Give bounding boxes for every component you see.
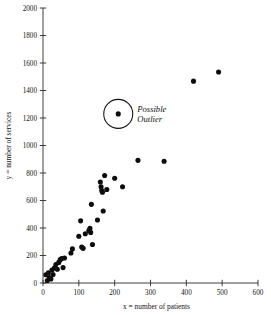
x-axis-title: x = number of patients: [123, 302, 190, 311]
data-point: [135, 158, 140, 163]
y-tick-label: 600: [26, 197, 37, 205]
data-point: [90, 242, 95, 247]
data-point: [88, 230, 93, 235]
x-tick-label: 100: [73, 289, 84, 297]
data-point: [48, 276, 53, 281]
y-tick-label: 400: [26, 225, 37, 233]
data-point: [61, 265, 66, 270]
data-point: [50, 272, 55, 277]
y-tick-label: 0: [33, 280, 37, 288]
data-point: [78, 218, 83, 223]
y-tick-label: 1000: [23, 142, 38, 150]
data-point: [104, 187, 109, 192]
outlier-annotation-line2: Outlier: [137, 114, 162, 124]
y-tick-label: 1400: [23, 87, 38, 95]
x-tick-label: 200: [109, 289, 120, 297]
data-point: [55, 267, 60, 272]
y-tick-label: 2000: [23, 5, 38, 13]
data-point: [70, 246, 75, 251]
data-point: [101, 208, 106, 213]
data-point: [162, 159, 167, 164]
outlier-annotation-line1: Possible: [136, 104, 166, 114]
y-tick-label: 1200: [23, 115, 38, 123]
data-point: [89, 202, 94, 207]
y-axis-title: y = number of services: [4, 111, 13, 179]
data-point: [120, 184, 125, 189]
plot-canvas: 0200400600800100012001400160018002000010…: [0, 0, 271, 315]
x-tick-label: 500: [217, 289, 228, 297]
y-tick-label: 800: [26, 170, 37, 178]
data-point: [112, 176, 117, 181]
x-tick-label: 600: [253, 289, 264, 297]
data-point: [98, 179, 103, 184]
data-point: [76, 234, 81, 239]
data-point: [95, 217, 100, 222]
data-point: [191, 79, 196, 84]
data-point: [102, 173, 107, 178]
y-tick-label: 1600: [23, 60, 38, 68]
data-point: [62, 255, 67, 260]
data-point: [100, 190, 105, 195]
x-tick-label: 300: [145, 289, 156, 297]
x-tick-label: 400: [181, 289, 192, 297]
scatter-plot-figure: 0200400600800100012001400160018002000010…: [0, 0, 271, 315]
data-point: [81, 246, 86, 251]
data-point: [116, 111, 121, 116]
x-tick-label: 0: [41, 289, 45, 297]
data-point: [216, 69, 221, 74]
y-tick-label: 200: [26, 252, 37, 260]
y-tick-label: 1800: [23, 32, 38, 40]
